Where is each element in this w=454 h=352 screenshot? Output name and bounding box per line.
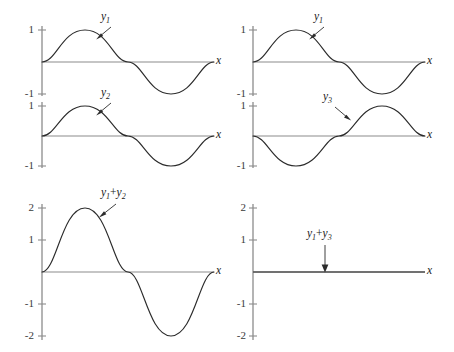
x-axis-label: x — [427, 129, 432, 141]
curve-label-y2: y2 — [101, 87, 110, 101]
y-tick-label-1: 1 — [227, 24, 246, 35]
curve-label-y1: y1 — [314, 11, 323, 25]
curve-label-sum-y1-y2: y1+y2 — [101, 187, 126, 201]
x-axis-label: x — [216, 55, 221, 67]
y-tick-label-minus-1: -1 — [10, 160, 34, 171]
panel-y3-mid-right-plot — [227, 90, 454, 176]
panel-y1-top-right: y1 1 -1 x — [227, 0, 454, 90]
curve-label-sum-y1-y3: y1+y3 — [307, 228, 332, 242]
panel-sum-y1-y3: y1+y3 2 1 -1 -2 x — [227, 176, 454, 352]
panel-y3-mid-right: y3 1 -1 x — [227, 90, 454, 176]
panel-y2-mid-left-plot — [0, 90, 227, 176]
y-tick-label-minus-1: -1 — [222, 160, 246, 171]
panel-y1-top-left-plot — [0, 0, 227, 90]
y-tick-label-minus-2: -2 — [222, 330, 246, 341]
panel-sum-y1-y3-plot — [227, 176, 454, 352]
curve-label-y1: y1 — [101, 11, 110, 25]
panel-y2-mid-left: y2 1 -1 x — [0, 90, 227, 176]
y-tick-label-1: 1 — [14, 24, 34, 35]
x-axis-label: x — [427, 55, 432, 67]
panel-y1-top-left: y1 1 -1 x — [0, 0, 227, 90]
y-tick-label-2: 2 — [14, 202, 34, 213]
y-tick-label-1: 1 — [227, 234, 246, 245]
panel-sum-y1-y2: y1+y2 2 1 -1 -2 x — [0, 176, 227, 352]
panel-y1-top-right-plot — [227, 0, 454, 90]
y-tick-label-minus-1: -1 — [222, 298, 246, 309]
y-tick-label-2: 2 — [227, 202, 246, 213]
interference-figure: y1 1 -1 x y2 1 -1 x y1 1 — [0, 0, 454, 352]
x-axis-label: x — [427, 265, 432, 277]
y-tick-label-1: 1 — [227, 100, 246, 111]
x-axis-label: x — [216, 129, 221, 141]
curve-label-y3: y3 — [323, 91, 332, 105]
y-tick-label-1: 1 — [14, 100, 34, 111]
y-tick-label-minus-1: -1 — [10, 298, 34, 309]
y-tick-label-minus-2: -2 — [10, 330, 34, 341]
x-axis-label: x — [216, 265, 221, 277]
y-tick-label-1: 1 — [14, 234, 34, 245]
panel-sum-y1-y2-plot — [0, 176, 227, 352]
